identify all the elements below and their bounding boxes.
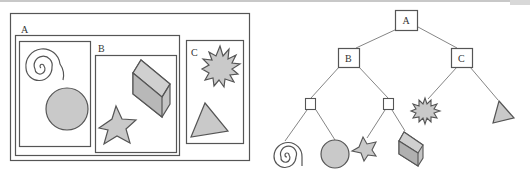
box-b-label: B — [98, 43, 105, 54]
tree-leaf-spiral-icon — [274, 142, 302, 167]
tree-leaf-star-icon — [352, 137, 376, 161]
tree-node-group-left — [306, 99, 316, 110]
tree-node-c: C — [452, 49, 473, 68]
tree-node-group-right — [384, 99, 394, 110]
circle-icon — [46, 88, 88, 130]
spiral-icon — [26, 49, 64, 81]
diagram-canvas: A B C A B C — [0, 0, 530, 184]
tree-node-b: B — [339, 49, 360, 68]
star-icon — [99, 106, 136, 144]
tree-leaf-circle-icon — [321, 140, 349, 168]
tree-edges — [285, 27, 498, 141]
box-a-label: A — [21, 24, 29, 35]
tree-node-b-label: B — [345, 53, 352, 64]
box-c-label: C — [191, 47, 198, 58]
starburst-icon — [202, 46, 240, 87]
tree-node-a-label: A — [403, 15, 411, 26]
triangle-icon — [191, 103, 228, 137]
tree-node-c-label: C — [458, 53, 465, 64]
cube-icon — [133, 60, 170, 117]
tree-leaf-starburst-icon — [411, 98, 440, 124]
tree-leaf-triangle-icon — [493, 101, 514, 123]
tree-node-a: A — [396, 11, 418, 31]
tree-leaf-cube-icon — [399, 132, 423, 166]
